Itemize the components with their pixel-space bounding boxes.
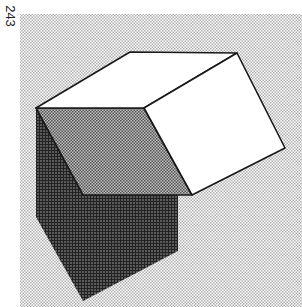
box-illustration [0, 0, 302, 307]
